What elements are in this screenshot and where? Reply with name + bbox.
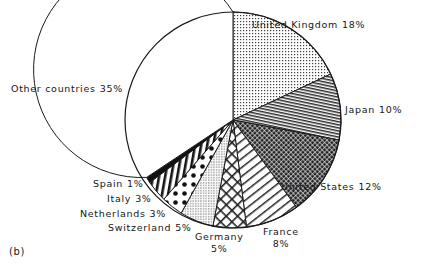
label-italy: Italy3% (107, 193, 152, 205)
label-spain: Spain1% (93, 178, 144, 190)
label-switzerland: Switzerland5% (108, 222, 192, 234)
label-united-states: United States12% (281, 181, 382, 193)
label-other-countries-pct: 35% (100, 83, 123, 94)
label-netherlands-pct: 3% (150, 208, 166, 219)
label-united-states-pct: 12% (358, 181, 381, 192)
label-germany-pct: 5% (195, 243, 244, 255)
label-spain-text: Spain (93, 178, 123, 189)
label-united-kingdom-text: United Kingdom (252, 19, 338, 30)
label-japan-pct: 10% (379, 104, 402, 115)
label-other-countries-text: Other countries (11, 83, 96, 94)
label-germany-text: Germany (195, 231, 244, 243)
label-germany: Germany 5% (195, 231, 244, 255)
label-united-kingdom: United Kingdom18% (252, 19, 365, 31)
label-france-pct: 8% (263, 238, 299, 250)
pie-chart-figure: United Kingdom18% Japan10% United States… (0, 0, 435, 273)
label-japan-text: Japan (345, 104, 375, 115)
label-japan: Japan10% (345, 104, 402, 116)
label-switzerland-text: Switzerland (108, 222, 171, 233)
label-netherlands-text: Netherlands (80, 208, 146, 219)
label-united-states-text: United States (281, 181, 354, 192)
label-other-countries: Other countries35% (11, 83, 123, 95)
label-spain-pct: 1% (127, 178, 143, 189)
figure-caption: (b) (9, 246, 25, 257)
pie-slices-group (34, 0, 341, 228)
label-france-text: France (263, 226, 299, 238)
label-united-kingdom-pct: 18% (342, 19, 365, 30)
label-netherlands: Netherlands3% (80, 208, 166, 220)
label-france: France 8% (263, 226, 299, 250)
label-italy-pct: 3% (135, 193, 151, 204)
label-italy-text: Italy (107, 193, 131, 204)
label-switzerland-pct: 5% (175, 222, 191, 233)
